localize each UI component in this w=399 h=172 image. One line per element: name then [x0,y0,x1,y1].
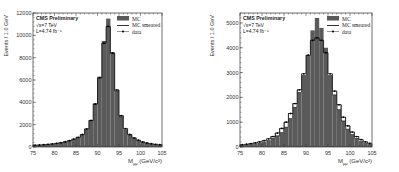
x-tick-label: 75 [237,150,243,156]
data-point [272,136,274,138]
y-tick-label: 6000 [19,77,31,83]
mc-bar [262,142,266,147]
legend-mc-label: MC [132,16,141,22]
mc-bar [271,138,275,147]
legend-data-label: data [132,29,142,35]
data-point [159,144,161,146]
data-point [90,120,92,122]
mc-bar [128,135,132,147]
data-point [259,141,261,143]
data-point [107,26,109,28]
mc-bar [302,75,306,147]
x-axis-label: Mμμ (GeV/c²) [338,158,372,166]
data-point [351,131,353,133]
data-point [94,103,96,105]
data-point [39,144,41,146]
data-point [155,143,157,145]
legend: MCMC smeareddata [117,16,161,35]
mc-bar [297,92,301,147]
data-point [103,42,105,44]
annotation-line: CMS Preliminary [36,15,78,21]
data-point [334,90,336,92]
data-point [303,73,305,75]
data-point [56,142,58,144]
y-tick-label: 2000 [19,122,31,128]
mc-bar [89,120,93,147]
legend-data-label: data [342,29,352,35]
legend-mc-label: MC [342,16,351,22]
data-point [329,73,331,75]
y-tick-label: 0 [235,144,238,150]
mc-bar [102,41,106,147]
data-point [290,113,292,115]
x-tick-label: 85 [73,150,79,156]
y-axis-label: Events / 1.0 GeV [209,15,215,57]
data-point [150,143,152,145]
mc-bar [310,30,314,147]
mc-bar [110,52,114,147]
data-point [146,142,148,144]
data-point [82,134,84,136]
data-point [325,52,327,54]
data-point [312,39,314,41]
legend-mc-swatch [327,16,339,21]
y-axis: 010002000300040005000 [226,13,243,150]
data-point [246,143,248,145]
y-tick-label: 10000 [16,32,31,38]
x-tick-label: 90 [94,150,100,156]
data-point [137,139,139,141]
annotation-line: CMS Preliminary [243,15,285,21]
x-axis-label: Mμμ (GeV/c²) [128,158,162,166]
mc-bar [337,110,341,147]
y-axis: 020004000600080001000012000 [16,10,36,150]
y-tick-label: 2000 [226,94,238,100]
mc-bar [85,129,89,147]
data-point [47,143,49,145]
chart-right: 7580859095100105010002000300040005000Eve… [200,0,399,172]
x-tick-label: 90 [303,150,309,156]
data-point [369,142,371,144]
mc-bar [76,138,80,147]
chart-left: 7580859095100105020004000600080001000012… [0,0,200,172]
mc-bar [72,139,76,147]
data-point [250,143,252,145]
mc-bar [67,141,71,147]
mc-bar [354,138,358,147]
data-point [77,136,79,138]
x-tick-label: 95 [116,150,122,156]
data-point [307,54,309,56]
x-tick-label: 80 [51,150,57,156]
annotation-line: √s=7 TeV [36,22,58,28]
mc-bar [266,140,270,147]
mc-bar [132,138,136,147]
mc-bar [253,143,257,147]
mc-bar [275,136,279,147]
mc-bar [258,143,262,147]
data-point [268,138,270,140]
data-point [356,136,358,138]
data-point [316,37,318,39]
mc-bar [346,129,350,147]
mc-bar [119,117,123,147]
data-point [343,116,345,118]
data-point [338,104,340,106]
cms-annotation: CMS Preliminary√s=7 TeVL=4.74 fb⁻¹ [36,15,78,34]
data-point [99,77,101,79]
data-point [321,39,323,41]
y-tick-label: 5000 [226,20,238,26]
annotation-line: √s=7 TeV [243,22,265,28]
mc-bar [363,143,367,147]
mc-bar [293,107,297,147]
mc-bar [350,135,354,147]
x-tick-label: 105 [157,150,166,156]
x-tick-label: 75 [30,150,36,156]
mc-bar [106,19,110,147]
histogram-plot-left: 7580859095100105020004000600080001000012… [0,0,200,172]
legend-mc-swatch [117,16,129,21]
cms-annotation: CMS Preliminary√s=7 TeVL=4.74 fb⁻¹ [243,15,285,34]
legend-smeared-label: MC smeared [132,22,161,28]
mc-bar [341,121,345,147]
data-point [360,139,362,141]
data-point [60,142,62,144]
x-tick-label: 105 [367,150,376,156]
